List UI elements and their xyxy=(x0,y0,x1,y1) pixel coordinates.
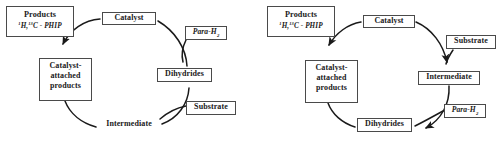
figure-container: Products 1H,13C - PHIP Catalyst Para-H2 … xyxy=(0,0,497,141)
node-intermediate-left: Intermediate xyxy=(98,120,160,133)
dihydrides-label: Dihydrides xyxy=(165,69,204,78)
node-catalyst-attached-products-left: Catalyst- attached products xyxy=(39,58,92,101)
products-formula: 1H,13C - PHIP xyxy=(10,21,70,31)
arc-dihydrides-to-catattached xyxy=(328,103,355,127)
catattached-line-1: Catalyst- xyxy=(49,61,81,70)
arc-substrate-feed xyxy=(446,50,453,64)
dihydrides-label: Dihydrides xyxy=(365,119,404,128)
node-dihydrides-left: Dihydrides xyxy=(157,68,212,82)
intermediate-label: Intermediate xyxy=(426,72,472,81)
cycle-diagram-right: Products 1H,13C - PHIP Catalyst Substrat… xyxy=(250,0,497,141)
iso-2: C - PHIP xyxy=(294,22,323,30)
node-intermediate-right: Intermediate xyxy=(418,71,480,85)
products-title: Products xyxy=(10,10,70,20)
catalyst-label: Catalyst xyxy=(374,16,403,25)
intermediate-label: Intermediate xyxy=(106,119,152,128)
node-catalyst-left: Catalyst xyxy=(102,12,156,25)
parah2-subscript: 2 xyxy=(476,111,478,116)
products-title: Products xyxy=(271,10,331,20)
substrate-label: Substrate xyxy=(194,102,228,111)
node-products-left: Products 1H,13C - PHIP xyxy=(6,6,74,37)
parah2-subscript: 2 xyxy=(217,33,219,38)
node-catalyst-right: Catalyst xyxy=(363,15,415,28)
parah2-label: Para-H xyxy=(193,27,217,36)
substrate-label: Substrate xyxy=(454,36,488,45)
arc-catalyst-to-intermediate xyxy=(416,22,447,62)
catattached-line-1: Catalyst- xyxy=(315,63,347,72)
cycle-diagram-left: Products 1H,13C - PHIP Catalyst Para-H2 … xyxy=(0,0,250,141)
node-substrate-left: Substrate xyxy=(186,101,236,115)
iso-2: C - PHIP xyxy=(33,22,62,30)
node-parahydrogen-right: Para-H2 xyxy=(444,104,486,118)
catattached-line-2: attached xyxy=(50,71,80,80)
arc-catattached-to-intermediate xyxy=(65,101,96,127)
catattached-line-2: attached xyxy=(316,73,346,82)
catalyst-label: Catalyst xyxy=(114,13,143,22)
node-products-right: Products 1H,13C - PHIP xyxy=(267,6,335,37)
node-catalyst-attached-products-right: Catalyst- attached products xyxy=(305,60,358,103)
parah2-label: Para-H xyxy=(452,105,476,114)
catattached-line-3: products xyxy=(316,83,347,92)
node-parahydrogen-left: Para-H2 xyxy=(185,26,227,40)
node-substrate-right: Substrate xyxy=(446,35,496,49)
catattached-line-3: products xyxy=(50,81,81,90)
products-formula: 1H,13C - PHIP xyxy=(271,21,331,31)
node-dihydrides-right: Dihydrides xyxy=(357,118,412,132)
